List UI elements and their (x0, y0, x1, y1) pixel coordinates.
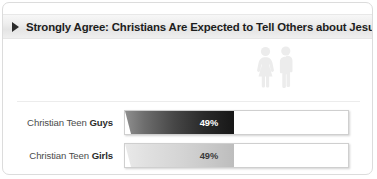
bar-fill-girls: 49% (125, 144, 234, 167)
table-row: Christian Teen Girls 49% (3, 139, 373, 172)
bar-value-guys: 49% (200, 118, 235, 128)
bar-label-prefix: Christian Teen (27, 117, 89, 128)
table-row: Christian Teen Guys 49% (3, 106, 373, 139)
bar-label-emphasis: Guys (89, 117, 113, 128)
bar-track-girls: 49% (124, 143, 349, 168)
female-silhouette-icon (257, 47, 274, 88)
section-divider (17, 101, 360, 102)
bar-chart: Christian Teen Guys 49% Christian Teen G… (3, 106, 373, 172)
chart-header: Strongly Agree: Christians Are Expected … (3, 14, 373, 39)
bar-fill-guys: 49% (125, 111, 234, 134)
bar-label-girls: Christian Teen Girls (3, 150, 124, 161)
chart-card: Strongly Agree: Christians Are Expected … (2, 2, 373, 175)
bar-label-prefix: Christian Teen (29, 150, 91, 161)
play-triangle-icon (12, 22, 19, 32)
couple-silhouette-illustration (252, 44, 300, 92)
male-silhouette-icon (280, 46, 293, 88)
bar-track-guys: 49% (124, 110, 349, 135)
bar-label-guys: Christian Teen Guys (3, 117, 124, 128)
page-title: Strongly Agree: Christians Are Expected … (26, 21, 373, 33)
bar-value-girls: 49% (200, 151, 235, 161)
bar-label-emphasis: Girls (92, 150, 113, 161)
